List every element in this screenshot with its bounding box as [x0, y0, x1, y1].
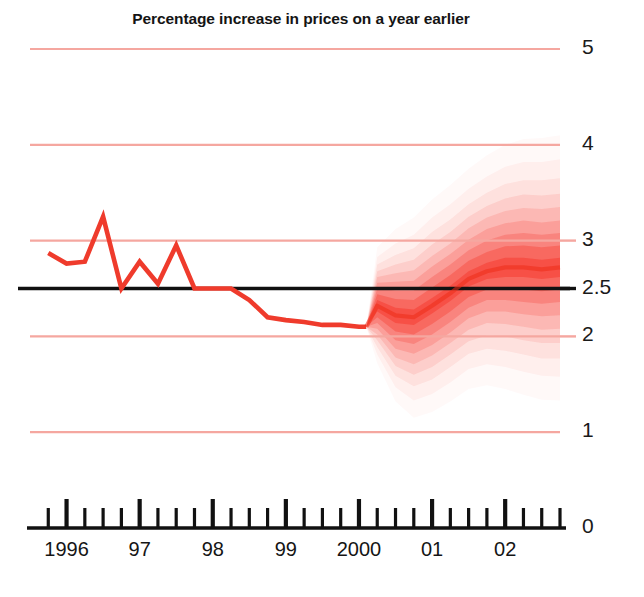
x-axis-label-02: 02: [494, 538, 516, 561]
x-axis-label-2000: 2000: [337, 538, 382, 561]
y-axis-label-2: 2: [582, 322, 594, 346]
y-axis-label-2-5: 2.5: [582, 275, 611, 299]
y-axis-label-5: 5: [582, 35, 594, 59]
y-axis-label-4: 4: [582, 131, 594, 155]
fan-bands-group: [366, 135, 560, 418]
y-axis-label-1: 1: [582, 418, 594, 442]
historical-inflation-line: [48, 217, 366, 327]
fan-chart: Percentage increase in prices on a year …: [0, 0, 644, 597]
chart-plot-area: [0, 0, 644, 597]
y-axis-label-0: 0: [582, 514, 594, 538]
x-axis-label-98: 98: [202, 538, 224, 561]
x-axis-label-1996: 1996: [44, 538, 89, 561]
x-axis-label-97: 97: [129, 538, 151, 561]
x-axis-group: [27, 499, 566, 528]
x-axis-label-01: 01: [421, 538, 443, 561]
history-line-group: [48, 217, 366, 327]
x-axis-label-99: 99: [275, 538, 297, 561]
y-axis-label-3: 3: [582, 227, 594, 251]
